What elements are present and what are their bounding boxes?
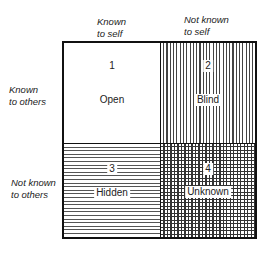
column-label-known-to-self: Known to self [97,16,126,40]
quadrant-open: 1 Open [64,43,161,144]
row-label-line1: Not known [11,177,56,189]
row-label-line1: Known [9,84,46,96]
quadrant-number: 1 [107,60,117,72]
quadrant-number: 2 [203,60,213,72]
column-label-line2: to self [184,26,229,38]
johari-grid: 1 Open 2 Blind 3 Hidden 4 Unknown [62,41,257,239]
column-label-line2: to self [97,28,126,40]
row-label-known-to-others: Known to others [9,84,46,108]
quadrant-name: Blind [195,94,221,106]
quadrant-number: 4 [203,163,213,175]
column-label-not-known-to-self: Not known to self [184,14,229,38]
quadrant-hidden: 3 Hidden [64,144,161,237]
quadrant-blind: 2 Blind [161,43,255,144]
row-label-not-known-to-others: Not known to others [11,177,56,201]
row-label-line2: to others [9,96,46,108]
quadrant-unknown: 4 Unknown [161,144,255,237]
quadrant-name: Open [98,94,126,106]
row-label-line2: to others [11,189,56,201]
quadrant-name: Unknown [185,186,231,198]
column-label-line1: Known [97,16,126,28]
column-label-line1: Not known [184,14,229,26]
quadrant-name: Hidden [94,187,130,199]
quadrant-number: 3 [107,163,117,175]
